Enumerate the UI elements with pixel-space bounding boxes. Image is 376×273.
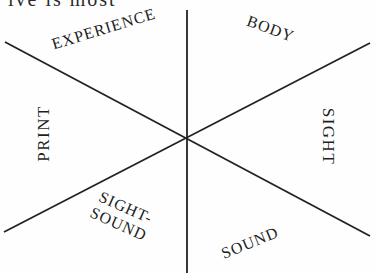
sector-label-print: PRINT [35,105,52,162]
sector-label-sight: SIGHT [320,108,337,166]
sensory-diagram: ive is most EXPERIENCE BODY PRINT SIGHT … [0,0,376,273]
